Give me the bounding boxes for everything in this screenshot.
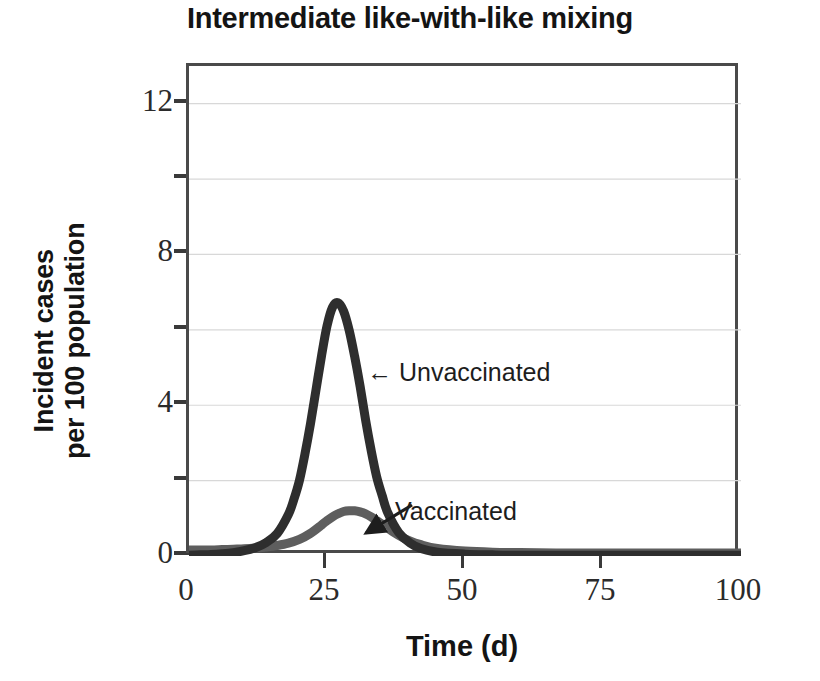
x-tick-label: 0 (178, 572, 194, 608)
x-tick-label: 50 (447, 572, 478, 608)
gridlines (189, 104, 741, 556)
y-axis-title: Incident cases per 100 population (29, 131, 91, 551)
y-axis-title-line-2: per 100 population (60, 131, 91, 551)
plot-area (186, 63, 738, 553)
y-tick-label: 0 (113, 535, 173, 571)
x-axis-tick-labels: 0255075100 (0, 572, 820, 617)
x-tick-label: 100 (715, 572, 762, 608)
plot-canvas (189, 66, 741, 556)
y-tick-label: 8 (113, 233, 173, 269)
y-tick-label: 12 (113, 83, 173, 119)
x-axis-title: Time (d) (186, 630, 738, 663)
annotation-unvaccinated: ← Unvaccinated (367, 358, 550, 387)
annotation-vaccinated: Vaccinated (395, 497, 517, 526)
y-axis-title-line-1: Incident cases (29, 131, 60, 551)
x-tick-label: 75 (585, 572, 616, 608)
y-tick-label: 4 (113, 384, 173, 420)
chart-figure: Intermediate like-with-like mixing Incid… (0, 0, 820, 681)
x-tick-label: 25 (309, 572, 340, 608)
